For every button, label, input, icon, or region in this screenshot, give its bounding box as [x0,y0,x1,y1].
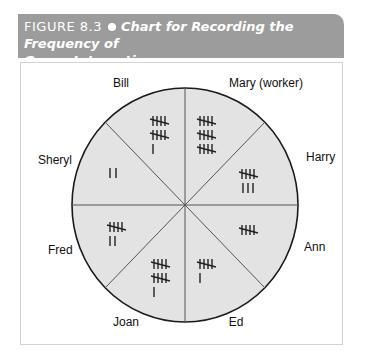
interaction-chart: Bill Mary (worker) Harry Ann Ed Joan Fre… [0,0,367,360]
label-harry: Harry [306,150,335,164]
label-ann: Ann [304,240,325,254]
label-joan: Joan [113,315,139,329]
label-fred: Fred [48,243,73,257]
label-ed: Ed [229,315,244,329]
label-bill: Bill [113,76,129,90]
label-sheryl: Sheryl [38,153,72,167]
label-mary: Mary (worker) [229,76,303,90]
